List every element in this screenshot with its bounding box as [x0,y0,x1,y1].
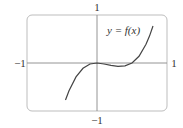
function-graph: 1 −1 −1 1 y = f(x) [0,0,183,128]
equation-label: y = f(x) [106,24,140,37]
y-min-label: −1 [91,114,103,126]
y-max-label: 1 [94,1,100,13]
x-max-label: 1 [171,57,177,69]
x-min-label: −1 [14,57,26,69]
